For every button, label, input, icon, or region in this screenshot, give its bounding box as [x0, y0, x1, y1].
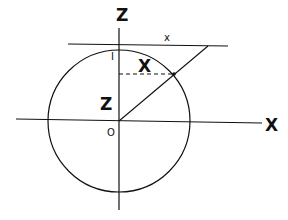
origin-label: O — [107, 127, 115, 138]
x-axis — [16, 119, 262, 123]
intersection-point — [172, 72, 176, 76]
projection-diagram: Z x I X Z O X — [0, 0, 288, 220]
x-axis-label: X — [265, 115, 278, 135]
projection-line — [119, 46, 208, 121]
tangent-line — [68, 44, 228, 46]
segment-z-label: Z — [100, 94, 112, 114]
tangent-x-label: x — [164, 32, 170, 43]
segment-x-label: X — [138, 56, 151, 76]
z-axis-label: Z — [116, 5, 128, 25]
unit-tick-label: I — [111, 51, 114, 62]
